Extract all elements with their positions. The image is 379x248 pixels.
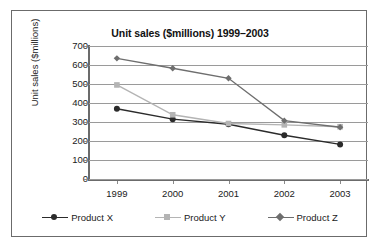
y-tick-0: 0 [42,174,88,184]
x-tick-mark-2002 [284,180,285,184]
y-tick-600: 600 [42,60,88,70]
y-tick-label: 500 [48,79,88,89]
line-product-y [117,85,340,127]
legend-marker-diamond-icon [275,213,283,221]
gridline-0 [89,179,368,180]
chart-title: Unit sales ($millions) 1999–2003 [12,27,368,39]
marker-product-z-1999 [114,55,120,61]
plot-area [89,46,368,179]
y-tick-label: 400 [48,98,88,108]
legend-label: Product Y [184,212,226,223]
x-tick-mark-2001 [229,180,230,184]
marker-product-y-2000 [170,112,176,118]
marker-product-x-2003 [337,141,343,147]
chart-screenshot: Unit sales ($millions) 1999–2003 Unit sa… [0,0,379,248]
x-tick-mark-2003 [340,180,341,184]
legend-swatch-icon [155,212,181,222]
x-tick-label-2001: 2001 [199,188,259,199]
y-tick-label: 0 [48,174,88,184]
legend-swatch-icon [42,212,68,222]
legend-label: Product X [71,212,113,223]
legend-marker-circle-icon [51,214,57,220]
y-tick-label: 600 [48,60,88,70]
marker-product-x-1999 [114,106,120,112]
y-tick-label: 100 [48,155,88,165]
legend-marker-square-icon [164,214,170,220]
x-tick-label-2002: 2002 [254,188,314,199]
y-tick-300: 300 [42,117,88,127]
chart-frame: Unit sales ($millions) 1999–2003 Unit sa… [11,10,367,237]
x-tick-mark-1999 [117,180,118,184]
x-tick-label-1999: 1999 [87,188,147,199]
marker-product-y-1999 [114,82,120,88]
y-tick-label: 200 [48,136,88,146]
line-product-z [117,58,340,127]
y-tick-700: 700 [42,41,88,51]
x-tick-label-2003: 2003 [310,188,370,199]
series-lines [89,46,368,179]
x-tick-mark-2000 [173,180,174,184]
marker-product-y-2001 [226,121,232,127]
marker-product-x-2002 [281,132,287,138]
legend-item-product-y[interactable]: Product Y [155,212,226,223]
legend-item-product-x[interactable]: Product X [42,212,113,223]
y-tick-200: 200 [42,136,88,146]
y-axis-title: Unit sales ($millions) [29,0,40,133]
y-tick-label: 300 [48,117,88,127]
legend-item-product-z[interactable]: Product Z [268,212,338,223]
marker-product-z-2000 [170,65,176,71]
y-tick-500: 500 [42,79,88,89]
x-tick-label-2000: 2000 [143,188,203,199]
y-tick-label: 700 [48,41,88,51]
chart-legend: Product XProduct YProduct Z [12,207,368,227]
y-tick-400: 400 [42,98,88,108]
legend-swatch-icon [268,212,294,222]
y-tick-100: 100 [42,155,88,165]
legend-label: Product Z [297,212,338,223]
